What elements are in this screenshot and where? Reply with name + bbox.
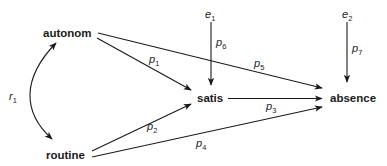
e2-label: e2: [342, 8, 352, 23]
p7-label: p7: [351, 42, 362, 57]
e1-label: e1: [205, 8, 215, 23]
node-routine: routine: [46, 149, 85, 161]
r1-label: r1: [9, 90, 17, 105]
node-absence: absence: [330, 92, 376, 104]
p4-label: p4: [195, 137, 206, 152]
p4-arrow: [92, 107, 322, 157]
p1-label: p1: [148, 53, 159, 68]
r1-correlation-arrow: [30, 43, 56, 139]
p6-label: p6: [215, 36, 226, 51]
node-satis: satis: [197, 92, 223, 104]
p3-label: p3: [265, 100, 276, 115]
p5-label: p5: [253, 57, 264, 72]
p2-arrow: [92, 104, 191, 151]
p1-arrow: [97, 38, 191, 90]
p5-arrow: [98, 33, 322, 88]
path-diagram: r1 p1 p5 p2 p4 p3 e1 p6 e2 p7 autonom ro…: [0, 0, 387, 166]
node-autonom: autonom: [43, 27, 92, 39]
p2-label: p2: [146, 120, 157, 135]
